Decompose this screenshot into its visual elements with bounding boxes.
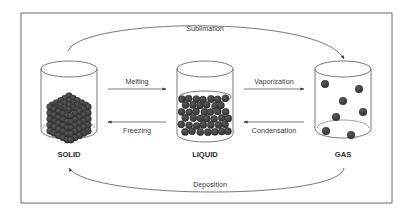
phase-diagram: Sublimation Deposition SOLID LIQUID bbox=[0, 0, 409, 215]
solid-label: SOLID bbox=[57, 150, 81, 159]
liquid-particles bbox=[178, 95, 232, 136]
melting-arrow: Melting bbox=[108, 77, 166, 89]
condensation-arrow: Condensation bbox=[244, 122, 304, 135]
liquid-label: LIQUID bbox=[192, 150, 218, 159]
condensation-label: Condensation bbox=[252, 126, 296, 135]
freezing-label: Freezing bbox=[123, 126, 151, 135]
deposition-label: Deposition bbox=[193, 180, 227, 189]
deposition-arrow: Deposition bbox=[69, 168, 344, 192]
solid-container: SOLID bbox=[41, 61, 97, 159]
solid-particles bbox=[47, 93, 92, 144]
gas-particles bbox=[321, 80, 367, 139]
freezing-arrow: Freezing bbox=[108, 122, 166, 135]
liquid-container: LIQUID bbox=[177, 61, 233, 159]
vaporization-arrow: Vaporization bbox=[244, 77, 304, 89]
sublimation-arrow: Sublimation bbox=[68, 24, 344, 59]
gas-container: GAS bbox=[315, 61, 371, 159]
gas-label: GAS bbox=[335, 150, 351, 159]
vaporization-label: Vaporization bbox=[254, 77, 293, 86]
sublimation-label: Sublimation bbox=[186, 24, 224, 33]
melting-label: Melting bbox=[125, 77, 148, 86]
